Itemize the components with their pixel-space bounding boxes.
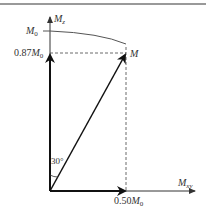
mz-axis-label: Mz bbox=[54, 14, 65, 26]
z-component-label: 0.87M0 bbox=[14, 48, 43, 60]
m0-arc bbox=[43, 31, 126, 44]
angle-arc bbox=[50, 175, 58, 177]
diagram-canvas: Mz M0 0.87M0 M 30° 0.50M0 Mxy bbox=[0, 0, 206, 215]
m-vector-label: M bbox=[130, 49, 138, 59]
xy-component-label: 0.50M0 bbox=[114, 196, 143, 208]
angle-label: 30° bbox=[51, 157, 64, 166]
m0-label: M0 bbox=[26, 26, 38, 38]
mxy-axis-label: Mxy bbox=[178, 178, 193, 190]
m-vector-arrow bbox=[50, 55, 125, 191]
